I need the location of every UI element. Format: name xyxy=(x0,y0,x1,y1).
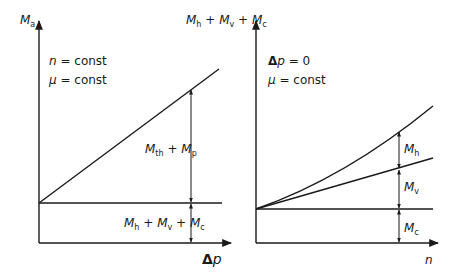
term: M xyxy=(186,13,196,27)
left-condition-mu: μ = const xyxy=(49,74,107,87)
condition-rest: = const xyxy=(276,73,326,87)
right-condition-dp: Δp = 0 xyxy=(268,55,310,68)
plus: + xyxy=(139,216,157,230)
n-symbol: n xyxy=(425,253,433,267)
condition-rest: = 0 xyxy=(285,54,310,68)
right-mv-label: Mv xyxy=(404,181,419,198)
term: M xyxy=(190,216,200,230)
left-x-axis-label: Δp xyxy=(202,253,222,266)
term: M xyxy=(404,180,414,194)
right-y-axis-label: Mh + Mv + Mc xyxy=(186,14,267,31)
subscript: c xyxy=(200,223,204,232)
plus: + xyxy=(201,13,219,27)
ma-symbol: M xyxy=(20,13,30,27)
condition-var: p xyxy=(277,54,285,68)
plus: + xyxy=(234,13,252,27)
diagram-canvas xyxy=(0,0,466,279)
condition-var: μ xyxy=(49,73,57,87)
subscript: v xyxy=(414,187,419,196)
right-x-axis-label: n xyxy=(425,254,433,267)
condition-rest: = const xyxy=(57,54,107,68)
subscript: h xyxy=(414,149,419,158)
left-condition-n: n = const xyxy=(49,55,107,68)
left-y-axis-label: Ma xyxy=(20,14,35,31)
term: M xyxy=(219,13,229,27)
right-condition-mu: μ = const xyxy=(268,74,326,87)
term: M xyxy=(181,142,191,156)
left-rising-line xyxy=(39,69,219,203)
delta-symbol: Δ xyxy=(202,251,213,267)
plus: + xyxy=(172,216,190,230)
condition-var: n xyxy=(49,54,57,68)
left-upper-segment-label: Mth + Mp xyxy=(145,143,197,160)
term: M xyxy=(157,216,167,230)
right-mh-label: Mh xyxy=(404,143,419,160)
subscript: c xyxy=(262,20,266,29)
subscript: p xyxy=(192,149,197,158)
right-mc-label: Mc xyxy=(404,222,419,239)
term: M xyxy=(404,221,414,235)
subscript: th xyxy=(155,149,163,158)
delta-symbol: Δ xyxy=(268,54,277,68)
term: M xyxy=(404,142,414,156)
ma-subscript: a xyxy=(30,20,35,29)
term: M xyxy=(124,216,134,230)
subscript: c xyxy=(414,228,418,237)
term: M xyxy=(252,13,262,27)
term: M xyxy=(145,142,155,156)
left-lower-segment-label: Mh + Mv + Mc xyxy=(124,217,205,234)
plus: + xyxy=(164,142,182,156)
condition-rest: = const xyxy=(57,73,107,87)
condition-var: μ xyxy=(268,73,276,87)
p-symbol: p xyxy=(213,251,222,267)
